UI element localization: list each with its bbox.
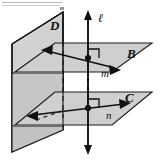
- line-ell-arrow-top: [84, 10, 92, 20]
- label-plane-D: D: [49, 18, 60, 33]
- label-line-ell: ℓ: [98, 11, 103, 25]
- figure-canvas: ℓ D B C m n: [0, 0, 160, 162]
- label-plane-B: B: [126, 46, 136, 61]
- top-scan-artifact: [2, 3, 64, 11]
- label-line-m: m: [101, 67, 109, 79]
- label-plane-C: C: [125, 90, 134, 105]
- point-upper: [85, 55, 91, 61]
- point-lower: [85, 105, 91, 111]
- line-ell-arrow-bottom: [84, 145, 92, 155]
- label-line-n: n: [106, 109, 112, 121]
- line-ell: [84, 10, 92, 155]
- geometry-figure: ℓ D B C m n: [0, 0, 160, 162]
